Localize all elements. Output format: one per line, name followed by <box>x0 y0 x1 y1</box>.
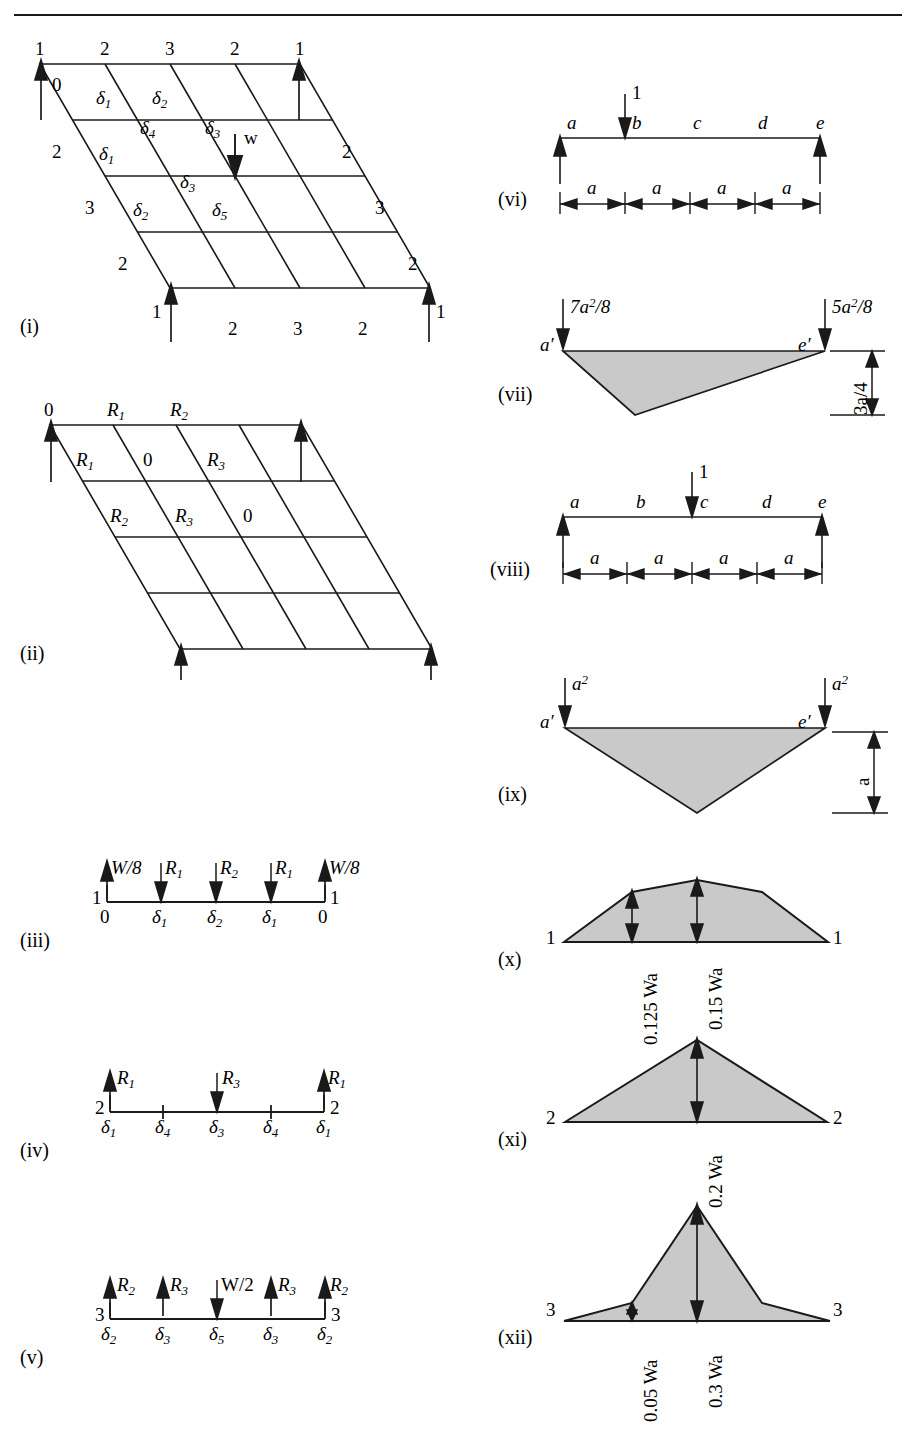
label-iv-end-right: 2 <box>330 1098 340 1117</box>
force-arrow-v-4 <box>265 1278 277 1316</box>
label-iv-force-2: R3 <box>222 1068 240 1091</box>
figure-ii-caption: (ii) <box>20 642 44 665</box>
label-i-bottom-5: 1 <box>436 302 446 321</box>
load-arrow-viii <box>686 472 698 517</box>
label-v-end-left: 3 <box>95 1305 105 1324</box>
label-iii-end-right: 1 <box>330 888 340 907</box>
label-i-left-1: 2 <box>52 142 62 161</box>
label-iii-defl-4: δ1 <box>262 907 277 930</box>
label-ii-R3a: R3 <box>207 450 225 473</box>
label-iv-defl-2: δ4 <box>155 1117 170 1140</box>
label-iv-defl-4: δ4 <box>263 1117 278 1140</box>
figure-xii-svg <box>460 1196 916 1331</box>
supports-ii <box>45 421 437 680</box>
label-xii-ordinate-2: 0.3 Wa <box>705 1355 727 1408</box>
force-arrow-ix-left <box>559 678 571 726</box>
dimension-line-vi <box>560 192 820 214</box>
figure-iii-caption: (iii) <box>20 929 50 952</box>
label-ix-force-left: a2 <box>572 674 588 693</box>
support-arrow-vi-left <box>554 136 566 184</box>
label-i-load-w: w <box>244 128 258 147</box>
label-iii-force-5: W/8 <box>329 858 360 877</box>
label-vi-node-d: d <box>758 113 768 132</box>
figure-viii: (viii) 1 a b c d e a a a a <box>460 450 916 610</box>
figure-iii: (iii) W/8 R1 R2 R1 W/8 1 1 0 δ1 δ2 δ1 0 <box>0 855 460 965</box>
support-arrow-bottom-left <box>165 284 177 342</box>
label-vi-span-4: a <box>782 178 792 197</box>
label-i-right-1: 2 <box>342 142 352 161</box>
label-i-right-3: 2 <box>408 254 418 273</box>
figure-xi-svg <box>460 1030 916 1140</box>
label-i-top-3: 3 <box>165 39 175 58</box>
label-x-end-right: 1 <box>833 928 843 947</box>
top-divider-rule <box>14 14 902 16</box>
label-ix-depth: a <box>852 778 874 786</box>
label-ii-R2b: R2 <box>110 506 128 529</box>
label-iv-defl-1: δ1 <box>101 1117 116 1140</box>
support-arrow-ii-bottom-right <box>425 645 437 680</box>
label-i-bottom-3: 3 <box>293 319 303 338</box>
label-vii-end-left: a′ <box>540 335 554 354</box>
label-ii-R3b: R3 <box>175 506 193 529</box>
label-viii-span-3: a <box>719 548 729 567</box>
label-iii-force-1: W/8 <box>111 858 142 877</box>
label-viii-load: 1 <box>699 462 709 481</box>
label-i-bottom-2: 2 <box>228 319 238 338</box>
label-vi-span-1: a <box>587 178 597 197</box>
figure-xi: (xi) 2 2 0.2 Wa <box>460 1030 916 1140</box>
label-i-delta-3b: δ3 <box>180 172 195 195</box>
force-arrow-ix-right <box>819 678 831 726</box>
label-v-force-3: W/2 <box>221 1275 254 1294</box>
label-iv-force-1: R1 <box>117 1068 135 1091</box>
label-ix-force-right: a2 <box>832 674 848 693</box>
figure-x-caption: (x) <box>498 948 521 971</box>
figure-ii-svg <box>0 400 460 680</box>
label-i-delta-5: δ5 <box>212 200 227 223</box>
load-arrow-w <box>228 134 242 178</box>
label-viii-node-c: c <box>700 492 708 511</box>
label-v-end-right: 3 <box>331 1305 341 1324</box>
label-viii-span-4: a <box>784 548 794 567</box>
force-arrow-v-1 <box>104 1278 116 1316</box>
figure-viii-svg <box>460 450 916 610</box>
label-ii-0c: 0 <box>243 506 253 525</box>
label-iii-end-left: 1 <box>92 888 102 907</box>
figure-vii: (vii) a′ e′ 7a2/8 5a2/8 3a/4 <box>460 255 916 425</box>
figure-vi-svg <box>460 80 916 240</box>
figure-xii-caption: (xii) <box>498 1326 532 1349</box>
figure-ix-caption: (ix) <box>498 783 527 806</box>
support-arrow-viii-right <box>816 515 828 568</box>
label-iii-force-2: R1 <box>165 858 183 881</box>
label-i-delta-4: δ4 <box>140 118 155 141</box>
support-arrow-ii-top-left <box>45 421 57 482</box>
label-vi-node-a: a <box>567 113 577 132</box>
label-i-top-2: 2 <box>100 39 110 58</box>
figure-viii-caption: (viii) <box>490 558 530 581</box>
label-iii-defl-3: δ2 <box>207 907 222 930</box>
force-arrow-iv-1 <box>104 1071 116 1109</box>
figure-ii: (ii) 0 R1 R2 R1 0 R3 R2 R3 0 <box>0 400 460 680</box>
label-i-delta-3a: δ3 <box>205 118 220 141</box>
label-ii-0b: 0 <box>143 450 153 469</box>
label-ii-R1a: R1 <box>107 400 125 423</box>
figure-ix: (ix) a′ e′ a2 a2 a <box>460 628 916 818</box>
label-xii-ordinate-1: 0.05 Wa <box>640 1359 662 1422</box>
label-v-force-5: R2 <box>330 1275 348 1298</box>
force-arrow-v-2 <box>157 1278 169 1316</box>
support-arrow-ii-bottom-left <box>175 645 187 680</box>
figure-vii-caption: (vii) <box>498 383 532 406</box>
label-v-force-1: R2 <box>117 1275 135 1298</box>
label-iii-defl-1: 0 <box>100 907 110 926</box>
label-iii-defl-2: δ1 <box>152 907 167 930</box>
label-i-top-1: 1 <box>35 39 45 58</box>
label-vi-span-3: a <box>717 178 727 197</box>
figure-vi-caption: (vi) <box>498 188 527 211</box>
load-arrow-vi <box>619 94 631 138</box>
label-ii-R2a: R2 <box>170 400 188 423</box>
label-v-force-4: R3 <box>278 1275 296 1298</box>
label-ix-end-left: a′ <box>540 712 554 731</box>
label-x-end-left: 1 <box>546 928 556 947</box>
label-viii-node-a: a <box>570 492 580 511</box>
area-shape-vii <box>563 351 825 415</box>
label-vi-load: 1 <box>632 83 642 102</box>
